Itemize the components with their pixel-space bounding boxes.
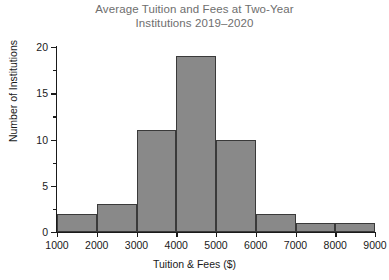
x-axis-tick [216,232,217,237]
histogram-bar [296,223,336,232]
x-axis-tick [256,232,257,237]
histogram-bar [216,140,256,233]
y-axis-tick [51,93,56,94]
x-axis-tick [375,232,376,237]
x-axis-tick [335,232,336,237]
x-axis-title: Tuition & Fees ($) [0,258,389,270]
plot-area: 05101520 1000200030004000500060007000800… [57,47,375,232]
histogram-bar [137,130,177,232]
x-axis-tick [137,232,138,237]
y-axis-tick-label: 5 [42,180,48,192]
x-axis-tick-label: 7000 [284,239,307,251]
y-axis-minor-tick [53,116,57,117]
y-axis-tick-label: 20 [36,41,48,53]
y-axis-tick [51,186,56,187]
chart-title-line-2: Institutions 2019–2020 [0,16,389,30]
x-axis-tick [57,232,58,237]
x-axis-tick-label: 5000 [204,239,227,251]
x-axis-tick-label: 1000 [45,239,68,251]
y-axis-title: Number of Institutions [7,16,19,166]
x-axis-tick-label: 8000 [324,239,347,251]
x-axis-tick-label: 6000 [244,239,267,251]
y-axis-minor-tick [53,70,57,71]
histogram-bar [97,204,137,232]
x-axis-tick-label: 4000 [165,239,188,251]
histogram-figure: Average Tuition and Fees at Two-Year Ins… [0,0,389,280]
y-axis-tick [51,232,56,233]
y-axis-tick [51,140,56,141]
chart-title: Average Tuition and Fees at Two-Year Ins… [0,2,389,30]
y-axis-tick-label: 10 [36,134,48,146]
y-axis-tick [51,47,56,48]
y-axis-tick-label: 15 [36,87,48,99]
x-axis-tick [97,232,98,237]
histogram-bar [335,223,375,232]
chart-title-line-1: Average Tuition and Fees at Two-Year [0,2,389,16]
histogram-bar [256,214,296,233]
y-axis-minor-tick [53,163,57,164]
histogram-bar [57,214,97,233]
x-axis-tick-label: 9000 [363,239,386,251]
x-axis-tick [296,232,297,237]
histogram-bar [176,56,216,232]
x-axis-tick-label: 2000 [85,239,108,251]
y-axis-tick-label: 0 [42,226,48,238]
y-axis-minor-tick [53,209,57,210]
x-axis-tick-label: 3000 [125,239,148,251]
x-axis-tick [176,232,177,237]
